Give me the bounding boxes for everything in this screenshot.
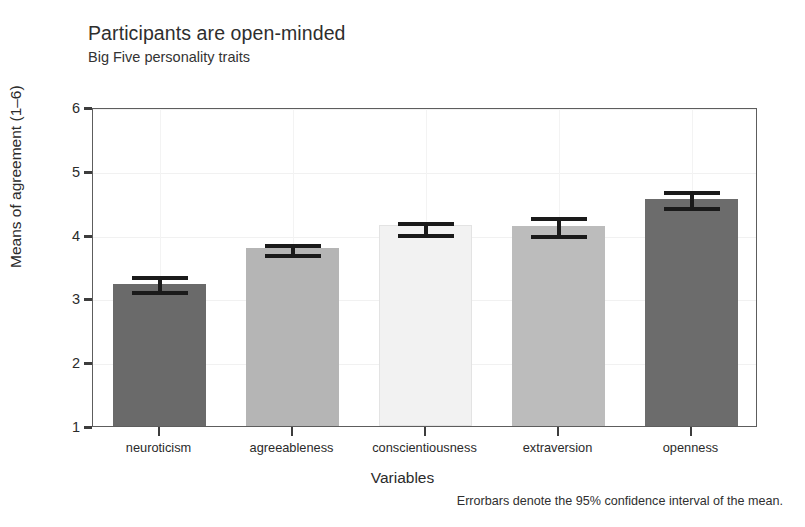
chart-figure: Participants are open-minded Big Five pe… (0, 0, 805, 527)
x-tick-mark (424, 427, 426, 436)
x-axis-title: Variables (0, 469, 805, 487)
errorbar-cap-lower (265, 254, 321, 258)
errorbar-openness (645, 191, 738, 211)
bar-agreeableness[interactable] (246, 248, 339, 426)
errorbar-cap-upper (664, 191, 720, 195)
bar-conscientiousness[interactable] (379, 225, 472, 426)
errorbar-cap-upper (265, 244, 321, 248)
y-axis-title: Means of agreement (1–6) (7, 85, 25, 268)
x-tick-mark (690, 427, 692, 436)
chart-caption: Errorbars denote the 95% confidence inte… (457, 494, 783, 508)
gridline-horizontal (93, 109, 756, 110)
gridline-horizontal (93, 173, 756, 174)
errorbar-agreeableness (246, 244, 339, 258)
y-tick-label-6: 6 (40, 100, 80, 116)
chart-title: Participants are open-minded (88, 22, 688, 44)
bar-openness[interactable] (645, 199, 738, 426)
y-tick-label-4: 4 (40, 228, 80, 244)
bar-neuroticism[interactable] (113, 284, 206, 426)
errorbar-cap-upper (132, 276, 188, 280)
errorbar-cap-lower (398, 234, 454, 238)
x-tick-mark (158, 427, 160, 436)
y-tick-label-1: 1 (40, 419, 80, 435)
y-tick-label-2: 2 (40, 355, 80, 371)
x-tick-label-extraversion: extraversion (523, 440, 593, 455)
plot-area (92, 108, 757, 427)
y-tick-mark (84, 298, 92, 301)
errorbar-cap-upper (531, 217, 587, 221)
x-tick-label-openness: openness (663, 440, 719, 455)
errorbar-cap-upper (398, 222, 454, 226)
errorbar-cap-lower (531, 235, 587, 239)
errorbar-conscientiousness (379, 222, 472, 238)
errorbar-neuroticism (113, 276, 206, 295)
y-tick-mark (84, 171, 92, 174)
title-block: Participants are open-minded Big Five pe… (88, 22, 688, 66)
x-tick-label-conscientiousness: conscientiousness (372, 440, 477, 455)
x-tick-label-neuroticism: neuroticism (126, 440, 191, 455)
y-tick-mark (84, 107, 92, 110)
x-tick-label-agreeableness: agreeableness (250, 440, 334, 455)
y-tick-mark (84, 235, 92, 238)
y-tick-mark (84, 426, 92, 429)
errorbar-cap-lower (664, 207, 720, 211)
bar-extraversion[interactable] (512, 226, 605, 426)
x-tick-mark (291, 427, 293, 436)
chart-subtitle: Big Five personality traits (88, 49, 688, 66)
errorbar-cap-lower (132, 291, 188, 295)
errorbar-extraversion (512, 217, 605, 239)
x-tick-mark (557, 427, 559, 436)
y-tick-mark (84, 362, 92, 365)
y-tick-label-3: 3 (40, 291, 80, 307)
y-tick-label-5: 5 (40, 164, 80, 180)
